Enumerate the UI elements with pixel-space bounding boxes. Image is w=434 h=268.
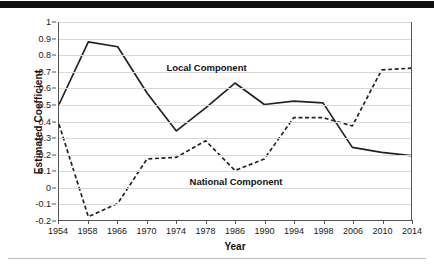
gridline bbox=[59, 122, 411, 123]
x-tick-mark bbox=[265, 220, 266, 224]
y-tick-label: 0.2 bbox=[38, 150, 51, 160]
x-tick-label: 1986 bbox=[225, 226, 245, 236]
x-tick-mark bbox=[88, 220, 89, 224]
y-tick-mark bbox=[52, 204, 56, 205]
x-tick-mark bbox=[353, 220, 354, 224]
series-annotation-national-component: National Component bbox=[190, 176, 283, 187]
y-tick-mark bbox=[52, 104, 56, 105]
chart-figure: Estimated Coefficient 10.90.80.70.60.50.… bbox=[0, 8, 434, 258]
series-line-national-component bbox=[59, 68, 411, 216]
x-tick-mark bbox=[58, 220, 59, 224]
x-tick-mark bbox=[294, 220, 295, 224]
gridline bbox=[59, 55, 411, 56]
y-tick-mark bbox=[52, 171, 56, 172]
y-tick-mark bbox=[52, 154, 56, 155]
y-tick-label: 0.7 bbox=[38, 67, 51, 77]
y-tick-mark bbox=[52, 138, 56, 139]
y-tick-mark bbox=[52, 55, 56, 56]
y-tick-label: 0.9 bbox=[38, 34, 51, 44]
x-tick-mark bbox=[147, 220, 148, 224]
y-tick-label: 0.8 bbox=[38, 50, 51, 60]
x-tick-mark bbox=[324, 220, 325, 224]
y-tick-mark bbox=[52, 121, 56, 122]
gridline bbox=[59, 39, 411, 40]
y-tick-label: 0.1 bbox=[38, 166, 51, 176]
y-tick-mark bbox=[52, 38, 56, 39]
gridline bbox=[59, 105, 411, 106]
x-tick-label: 1990 bbox=[254, 226, 274, 236]
y-tick-label: 0.4 bbox=[38, 117, 51, 127]
y-tick-mark bbox=[52, 187, 56, 188]
x-tick-label: 2006 bbox=[343, 226, 363, 236]
y-tick-mark bbox=[52, 221, 56, 222]
gridline bbox=[59, 138, 411, 139]
x-tick-mark bbox=[383, 220, 384, 224]
y-tick-mark bbox=[52, 22, 56, 23]
y-tick-label: 1 bbox=[46, 17, 51, 27]
y-tick-label: 0 bbox=[46, 183, 51, 193]
gridline bbox=[59, 88, 411, 89]
x-tick-label: 2014 bbox=[402, 226, 422, 236]
y-axis-tick-labels: 10.90.80.70.60.50.40.30.20.10-0.1-0.2 bbox=[18, 22, 56, 221]
y-tick-label: 0.6 bbox=[38, 83, 51, 93]
gridline bbox=[59, 204, 411, 205]
x-axis-title: Year bbox=[58, 241, 412, 252]
y-tick-label: 0.3 bbox=[38, 133, 51, 143]
x-tick-label: 2010 bbox=[372, 226, 392, 236]
x-axis-tick-labels: 1954195819661970197419781986199019941998… bbox=[58, 223, 412, 239]
x-tick-label: 1994 bbox=[284, 226, 304, 236]
x-tick-label: 1954 bbox=[48, 226, 68, 236]
plot-area: Local ComponentNational Component bbox=[58, 22, 412, 221]
y-tick-label: -0.1 bbox=[35, 199, 51, 209]
x-tick-label: 1966 bbox=[107, 226, 127, 236]
y-tick-label: 0.5 bbox=[38, 100, 51, 110]
gridline bbox=[59, 171, 411, 172]
top-black-bar bbox=[0, 1, 434, 8]
x-tick-mark bbox=[206, 220, 207, 224]
series-annotation-local-component: Local Component bbox=[166, 62, 246, 73]
x-tick-label: 1978 bbox=[195, 226, 215, 236]
x-tick-label: 1998 bbox=[313, 226, 333, 236]
x-tick-label: 1974 bbox=[166, 226, 186, 236]
x-tick-label: 1958 bbox=[77, 226, 97, 236]
gridline bbox=[59, 155, 411, 156]
y-tick-label: -0.2 bbox=[35, 216, 51, 226]
x-tick-mark bbox=[176, 220, 177, 224]
gridline bbox=[59, 188, 411, 189]
y-tick-mark bbox=[52, 88, 56, 89]
x-tick-mark bbox=[117, 220, 118, 224]
x-tick-label: 1970 bbox=[136, 226, 156, 236]
y-tick-mark bbox=[52, 71, 56, 72]
gridline bbox=[59, 22, 411, 23]
x-tick-mark bbox=[412, 220, 413, 224]
bottom-rule bbox=[8, 258, 426, 259]
x-tick-mark bbox=[235, 220, 236, 224]
